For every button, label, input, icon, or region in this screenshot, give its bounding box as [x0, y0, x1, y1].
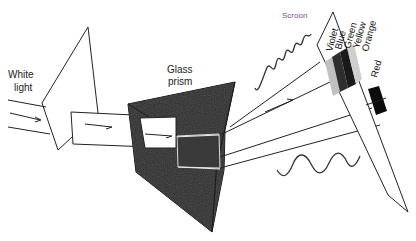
arrow-icon	[265, 99, 293, 112]
white-light-label-2: light	[14, 82, 33, 93]
glass-prism-label-2: prism	[168, 76, 192, 87]
screen-label: Scroon	[282, 11, 307, 20]
incoming-white-light	[8, 100, 50, 134]
glass-prism-label-1: Glass	[167, 64, 193, 75]
glass-prism	[128, 82, 235, 232]
prism-dispersion-diagram: Violet Blue Green Yellow Orange Red Whit…	[0, 0, 416, 241]
screen: Violet Blue Green Yellow Orange Red	[317, 12, 408, 212]
short-wavelength-wave	[255, 34, 311, 90]
label-red: Red	[368, 59, 383, 79]
long-wavelength-wave	[277, 153, 360, 176]
white-light-label-1: White	[8, 69, 34, 80]
